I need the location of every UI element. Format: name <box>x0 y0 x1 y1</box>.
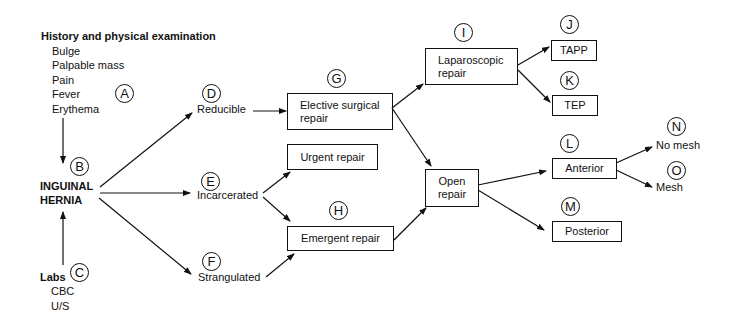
marker-h: H <box>329 201 348 220</box>
box-posterior: Posterior <box>552 221 622 242</box>
tapp-label: TAPP <box>560 44 588 57</box>
box-elective-repair: Elective surgical repair <box>287 93 393 130</box>
state-strangulated: Strangulated <box>198 271 260 284</box>
marker-b: B <box>70 157 89 176</box>
marker-i: I <box>454 23 473 42</box>
box-laparoscopic-repair: Laparoscopic repair <box>425 48 518 85</box>
posterior-label: Posterior <box>565 225 609 238</box>
history-item: Fever <box>52 88 80 101</box>
state-reducible: Reducible <box>197 103 246 116</box>
state-incarcerated: Incarcerated <box>197 189 258 202</box>
marker-j: J <box>560 15 579 34</box>
history-title: History and physical examination <box>41 30 216 43</box>
marker-k: K <box>560 71 579 90</box>
hernia-label-line2: HERNIA <box>40 194 82 207</box>
history-item: Erythema <box>52 103 99 116</box>
box-tapp: TAPP <box>551 40 597 61</box>
history-item: Palpable mass <box>52 59 124 72</box>
labs-title: Labs <box>40 271 66 284</box>
marker-f: F <box>202 252 221 271</box>
history-item: Bulge <box>52 45 80 58</box>
hernia-label-line1: INGUINAL <box>40 180 93 193</box>
tep-label: TEP <box>564 99 585 112</box>
laparoscopic-line1: Laparoscopic <box>438 54 517 67</box>
emergent-label: Emergent repair <box>301 232 380 245</box>
box-anterior: Anterior <box>552 158 617 179</box>
open-line2: repair <box>438 188 466 201</box>
marker-m: M <box>561 197 580 216</box>
marker-g: G <box>327 69 346 88</box>
labs-item: CBC <box>51 285 74 298</box>
anterior-label: Anterior <box>565 162 604 175</box>
labs-item: U/S <box>51 300 69 313</box>
urgent-label: Urgent repair <box>300 151 364 164</box>
box-urgent-repair: Urgent repair <box>287 144 378 170</box>
elective-line2: repair <box>300 112 392 125</box>
marker-a: A <box>115 84 134 103</box>
open-line1: Open <box>439 175 466 188</box>
outcome-mesh: Mesh <box>656 181 683 194</box>
history-item: Pain <box>52 74 74 87</box>
box-emergent-repair: Emergent repair <box>287 226 394 251</box>
outcome-no-mesh: No mesh <box>656 139 700 152</box>
marker-n: N <box>667 117 686 136</box>
box-tep: TEP <box>552 95 598 116</box>
box-open-repair: Open repair <box>425 169 479 207</box>
marker-d: D <box>202 84 221 103</box>
laparoscopic-line2: repair <box>438 67 517 80</box>
marker-l: L <box>560 134 579 153</box>
marker-c: C <box>70 263 89 282</box>
marker-o: O <box>667 161 686 180</box>
elective-line1: Elective surgical <box>300 99 392 112</box>
